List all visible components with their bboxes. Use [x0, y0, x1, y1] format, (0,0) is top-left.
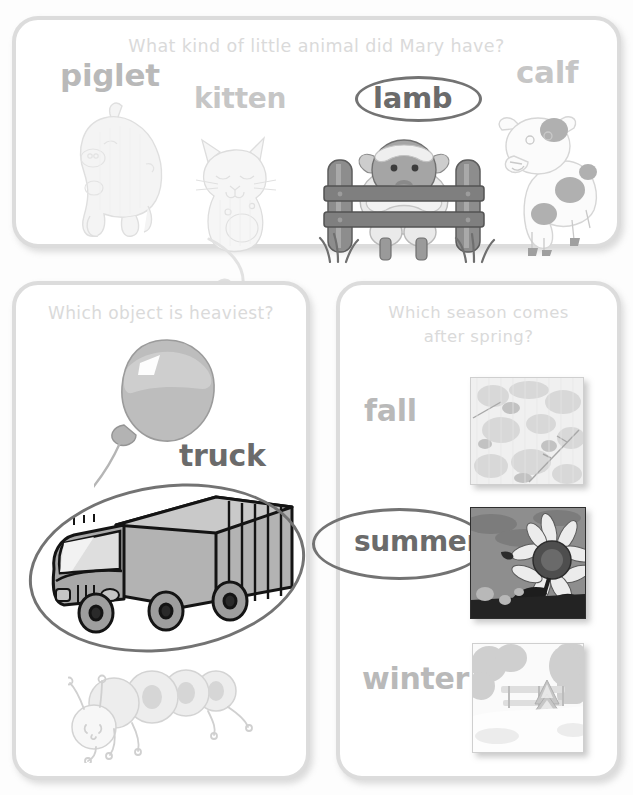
snowy-pine-tree-photo[interactable]	[472, 643, 584, 753]
caterpillar-illustration[interactable]	[68, 663, 268, 763]
option-label-summer[interactable]: summer	[354, 525, 480, 558]
question-prompt-season: Which season comes after spring?	[340, 301, 617, 349]
option-label-fall[interactable]: fall	[364, 393, 417, 428]
option-label-calf[interactable]: calf	[516, 54, 578, 90]
option-label-kitten[interactable]: kitten	[194, 82, 286, 115]
option-label-winter[interactable]: winter	[362, 661, 469, 696]
option-label-piglet[interactable]: piglet	[60, 57, 160, 93]
question-prompt-heaviest: Which object is heaviest?	[16, 301, 306, 326]
worksheet-page: What kind of little animal did Mary have…	[0, 0, 633, 795]
sunflower-photo[interactable]	[470, 507, 586, 619]
question-card-animals[interactable]: What kind of little animal did Mary have…	[12, 16, 621, 248]
option-label-lamb[interactable]: lamb	[373, 81, 452, 115]
piglet-illustration[interactable]	[60, 98, 175, 243]
truck-illustration[interactable]	[34, 477, 304, 647]
option-label-truck[interactable]: truck	[179, 438, 266, 473]
calf-illustration[interactable]	[496, 92, 616, 257]
question-card-heaviest[interactable]: Which object is heaviest? truck	[12, 281, 310, 780]
autumn-leaves-photo[interactable]	[470, 377, 584, 485]
question-card-season[interactable]: Which season comes after spring? fall	[336, 281, 621, 780]
lamb-at-fence-illustration[interactable]	[316, 120, 506, 265]
